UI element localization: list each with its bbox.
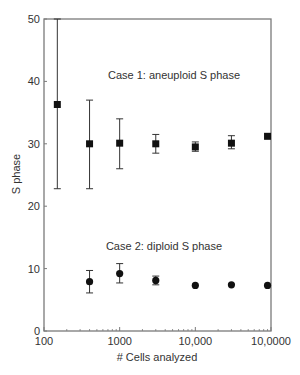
circle-marker <box>86 278 93 285</box>
y-tick-label: 50 <box>28 13 40 25</box>
square-marker <box>116 140 123 147</box>
y-tick-label: 40 <box>28 75 40 87</box>
s-phase-chart: 01020304050100100010,00010,0000 Case 1: … <box>0 0 300 375</box>
series-case1 <box>54 19 271 189</box>
square-marker <box>192 143 199 150</box>
x-tick-label: 10,000 <box>179 335 213 347</box>
y-axis-label: S phase <box>10 154 22 194</box>
x-axis-label: # Cells analyzed <box>117 351 198 363</box>
x-tick-label: 10,0000 <box>251 335 291 347</box>
y-tick-label: 20 <box>28 200 40 212</box>
square-marker <box>228 140 235 147</box>
circle-marker <box>116 270 123 277</box>
square-marker <box>54 101 61 108</box>
axes <box>44 19 271 331</box>
ticks: 01020304050100100010,00010,0000 <box>28 13 291 347</box>
circle-marker <box>152 277 159 284</box>
circle-marker <box>228 281 235 288</box>
y-tick-label: 10 <box>28 263 40 275</box>
circle-marker <box>264 282 271 289</box>
x-tick-label: 1000 <box>107 335 131 347</box>
square-marker <box>264 133 271 140</box>
series-case2 <box>86 264 271 293</box>
square-marker <box>152 140 159 147</box>
annotation-case1: Case 1: aneuploid S phase <box>108 69 240 81</box>
y-tick-label: 30 <box>28 138 40 150</box>
plot-frame <box>44 19 271 331</box>
circle-marker <box>192 282 199 289</box>
x-tick-label: 100 <box>35 335 53 347</box>
square-marker <box>86 140 93 147</box>
chart-canvas: 01020304050100100010,00010,0000 Case 1: … <box>0 0 300 375</box>
annotation-case2: Case 2: diploid S phase <box>106 240 222 252</box>
